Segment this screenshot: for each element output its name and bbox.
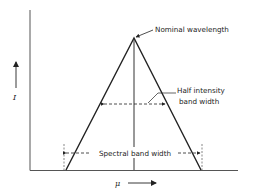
half-intensity-label-line2: band width [179,97,219,106]
y-axis-symbol: I [12,93,17,102]
half-intensity-label-line1: Half intensity [177,86,226,95]
x-axis-symbol: μ [115,179,120,188]
nominal-wavelength-label: Nominal wavelength [155,25,229,34]
nominal-wavelength-leader [136,30,153,37]
spectral-band-diagram: Nominal wavelength Half intensity band w… [0,0,253,195]
spectral-band-width-label: Spectral band width [99,149,171,158]
